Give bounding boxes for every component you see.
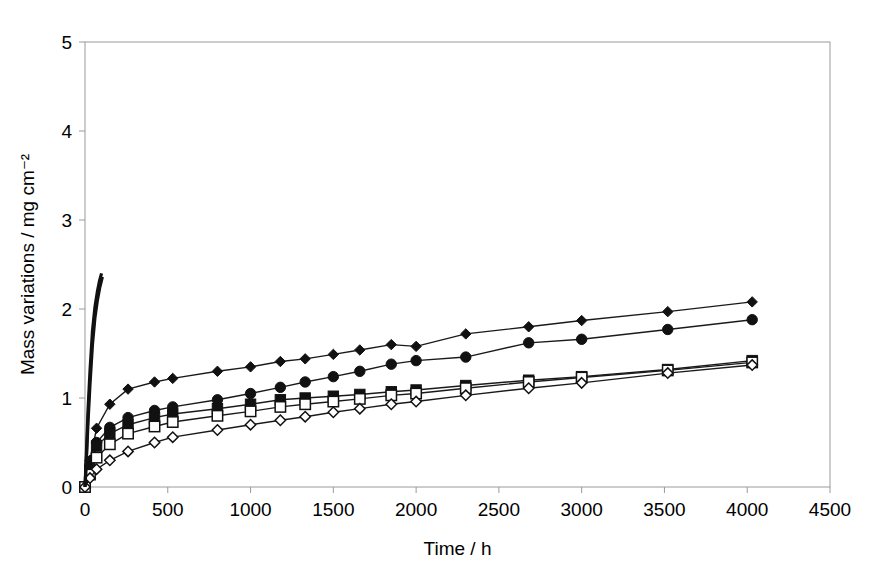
data-point-open-diamond [328, 407, 338, 417]
series-open-diamond-series [80, 360, 758, 492]
data-point-filled-diamond [245, 362, 255, 372]
data-point-open-diamond [149, 437, 159, 447]
data-point-filled-square [91, 441, 101, 451]
plot-border [85, 42, 830, 487]
data-point-filled-circle [386, 359, 396, 369]
data-point-open-diamond [105, 455, 115, 465]
data-point-open-diamond [355, 403, 365, 413]
data-point-filled-circle [461, 352, 471, 362]
data-point-filled-circle [576, 334, 586, 344]
data-point-filled-diamond [747, 297, 757, 307]
data-point-filled-circle [275, 382, 285, 392]
series-polyline [85, 361, 752, 487]
data-point-filled-circle [747, 314, 757, 324]
data-point-open-square [91, 452, 101, 462]
data-point-open-square [123, 428, 133, 438]
data-point-open-square [149, 421, 159, 431]
data-point-filled-diamond [91, 423, 101, 433]
y-axis-title: Mass variations / mg cm⁻² [17, 154, 38, 375]
data-point-open-diamond [123, 446, 133, 456]
data-point-filled-diamond [411, 341, 421, 351]
data-point-filled-diamond [300, 354, 310, 364]
data-point-open-square [328, 396, 338, 406]
data-point-filled-square [105, 428, 115, 438]
series-polyline [85, 365, 752, 487]
data-point-filled-circle [663, 324, 673, 334]
x-tick-label: 4000 [726, 499, 768, 520]
data-point-open-square [105, 439, 115, 449]
data-point-open-diamond [168, 432, 178, 442]
y-tick-label: 0 [61, 477, 72, 498]
data-point-filled-diamond [663, 306, 673, 316]
x-tick-label: 3000 [561, 499, 603, 520]
x-tick-label: 4500 [809, 499, 851, 520]
series-filled-square-series [80, 355, 758, 492]
data-point-filled-diamond [328, 349, 338, 359]
data-point-open-square [168, 417, 178, 427]
x-tick-label: 1000 [229, 499, 271, 520]
x-tick-label: 500 [152, 499, 184, 520]
data-point-filled-circle [355, 366, 365, 376]
data-point-filled-diamond [386, 339, 396, 349]
y-tick-label: 3 [61, 210, 72, 231]
series-polyline [85, 362, 752, 487]
data-point-filled-circle [245, 388, 255, 398]
data-point-open-square [300, 399, 310, 409]
x-axis-title: Time / h [424, 538, 492, 559]
chart-figure: 0500100015002000250030003500400045000123… [0, 0, 872, 570]
data-point-open-square [245, 406, 255, 416]
y-tick-label: 5 [61, 32, 72, 53]
x-tick-label: 0 [80, 499, 91, 520]
data-point-filled-diamond [355, 345, 365, 355]
data-point-open-square [275, 402, 285, 412]
data-point-filled-diamond [275, 356, 285, 366]
data-point-open-diamond [212, 425, 222, 435]
data-point-filled-circle [523, 338, 533, 348]
x-tick-label: 3500 [643, 499, 685, 520]
data-point-filled-diamond [461, 329, 471, 339]
data-point-filled-diamond [168, 373, 178, 383]
data-point-filled-circle [328, 371, 338, 381]
data-point-open-square [212, 411, 222, 421]
data-point-open-diamond [245, 420, 255, 430]
y-tick-label: 1 [61, 388, 72, 409]
data-point-filled-diamond [523, 322, 533, 332]
axis-tick-labels: 0500100015002000250030003500400045000123… [61, 32, 851, 520]
mass-variation-line-chart: 0500100015002000250030003500400045000123… [0, 0, 872, 570]
data-point-filled-diamond [576, 315, 586, 325]
y-tick-label: 4 [61, 121, 72, 142]
data-point-filled-circle [411, 355, 421, 365]
data-point-filled-diamond [212, 366, 222, 376]
data-series-group [80, 273, 758, 492]
x-tick-label: 2000 [395, 499, 437, 520]
data-point-filled-circle [300, 377, 310, 387]
y-tick-label: 2 [61, 299, 72, 320]
x-tick-label: 2500 [478, 499, 520, 520]
data-point-filled-diamond [149, 377, 159, 387]
data-point-open-diamond [300, 411, 310, 421]
plot-frame [85, 42, 830, 487]
axis-ticks [79, 42, 830, 493]
data-point-open-diamond [275, 415, 285, 425]
x-tick-label: 1500 [312, 499, 354, 520]
